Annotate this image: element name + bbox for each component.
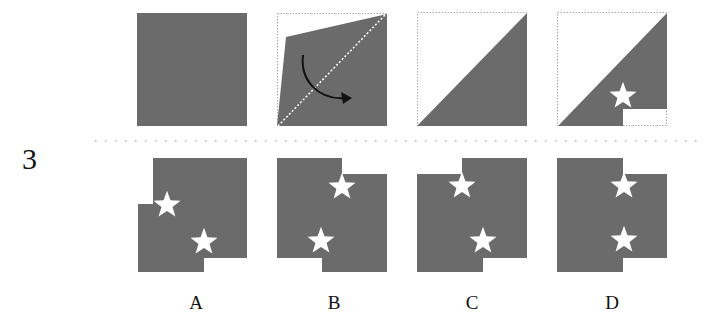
step-4-cut-triangle (558, 13, 668, 127)
option-c-label[interactable]: C (452, 292, 492, 314)
option-b-label[interactable]: B (314, 292, 354, 314)
option-d-figure[interactable] (557, 158, 667, 272)
step-2-folding (277, 14, 387, 127)
option-a-figure[interactable] (138, 158, 247, 272)
question-number: 3 (22, 142, 37, 176)
option-a-label[interactable]: A (176, 292, 216, 314)
option-b-figure[interactable] (277, 158, 387, 272)
step-1-square (137, 13, 247, 126)
option-c-figure[interactable] (417, 158, 527, 272)
step-3-triangle (417, 13, 527, 127)
option-d-label[interactable]: D (592, 292, 632, 314)
puzzle-canvas (0, 0, 712, 326)
